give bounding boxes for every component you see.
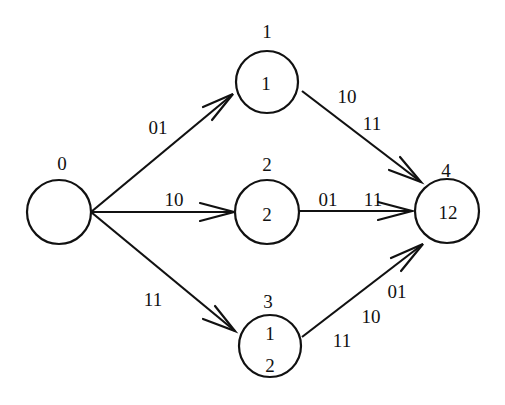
edge-label: 11 xyxy=(364,189,382,210)
node-label: 4 xyxy=(441,160,451,181)
node-label: 0 xyxy=(57,153,67,174)
node-content: 12 xyxy=(439,202,458,223)
edge-label: 10 xyxy=(362,306,381,327)
node-label: 3 xyxy=(263,291,273,312)
edge-label: 10 xyxy=(165,189,184,210)
edge-label: 10 xyxy=(338,86,357,107)
node-content: 2 xyxy=(265,355,275,376)
node-content: 2 xyxy=(262,204,272,225)
edge-label: 11 xyxy=(333,330,351,351)
node-content: 1 xyxy=(265,323,275,344)
edge-label: 01 xyxy=(319,189,338,210)
node-1: 1 1 xyxy=(236,21,298,114)
node-label: 2 xyxy=(262,154,272,175)
node-0: 0 xyxy=(27,153,91,245)
edge-label: 01 xyxy=(149,117,168,138)
edge-line xyxy=(302,91,421,182)
node-4: 4 12 xyxy=(415,160,479,244)
edge-0-1 xyxy=(91,94,233,212)
node-circle xyxy=(27,180,91,244)
state-diagram: 0 1 1 2 2 3 1 2 4 12 01 10 11 10 11 01 1… xyxy=(0,0,505,405)
edge-label: 11 xyxy=(363,113,381,134)
edge-line xyxy=(91,212,235,331)
edge-0-3 xyxy=(91,212,235,331)
edge-label: 11 xyxy=(144,289,162,310)
edge-0-2 xyxy=(91,203,234,221)
edge-2-4 xyxy=(299,202,412,220)
node-label: 1 xyxy=(262,21,272,42)
node-3: 3 1 2 xyxy=(239,291,301,378)
edge-line xyxy=(91,94,233,212)
edge-label: 01 xyxy=(388,281,407,302)
edge-1-4 xyxy=(302,91,421,182)
node-content: 1 xyxy=(261,73,271,94)
node-2: 2 2 xyxy=(235,154,299,245)
